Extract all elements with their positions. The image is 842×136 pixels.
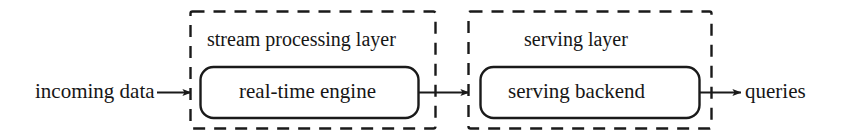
label-queries: queries [745, 81, 806, 102]
label-real-time-engine: real-time engine [239, 81, 376, 102]
label-serving-layer: serving layer [524, 29, 628, 49]
label-serving-backend: serving backend [508, 81, 645, 102]
label-incoming-data: incoming data [35, 81, 155, 102]
label-stream-processing-layer: stream processing layer [207, 29, 396, 49]
diagram-canvas: incoming data stream processing layer re… [0, 0, 842, 136]
diagram-vector-layer [0, 0, 842, 136]
